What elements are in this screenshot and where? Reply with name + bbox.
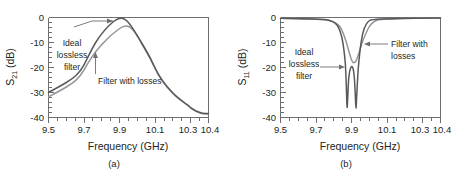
panel-b-annot-ideal-line-0: Ideal [295, 47, 314, 57]
panel-b: 0 -10 -20 -30 -40 9.5 9.7 9.9 10.1 10.3 … [228, 0, 456, 170]
panel-b-ytick-0: 0 [271, 12, 276, 23]
panel-a-y-axis-title: S21 (dB) [4, 48, 18, 86]
panel-a-ylabel-sub: 21 [11, 71, 18, 79]
panel-b-annotation-ideal-text: Ideal lossless filter [289, 47, 320, 81]
panel-b-ylabel-unit: (dB) [236, 48, 248, 71]
panel-a-annot-ideal-line-0: Ideal [63, 38, 82, 48]
panel-b-ylabel-sub: 11 [243, 71, 250, 78]
panel-b-annotation-lossy-leader [364, 41, 388, 46]
panel-b-xtick-5: 10.4 [433, 124, 452, 135]
panel-b-ytick-3: -30 [262, 87, 276, 98]
panel-b-ytick-2: -20 [262, 62, 276, 73]
panel-a-xtick-4: 10.3 [179, 124, 198, 135]
svg-text:S21 (dB): S21 (dB) [4, 48, 18, 86]
panel-a-xtick-2: 9.9 [113, 124, 126, 135]
panel-a-caption: (a) [108, 158, 120, 169]
panel-b-annotation-ideal-leader [320, 64, 345, 69]
panel-b-x-axis-title: Frequency (GHz) [320, 140, 401, 152]
panel-b-x-tick-labels: 9.5 9.7 9.9 10.1 10.3 10.4 [274, 124, 451, 135]
panel-a-ytick-1: -10 [30, 37, 44, 48]
panel-b-xtick-2: 9.9 [345, 124, 358, 135]
panel-a-ytick-4: -40 [30, 112, 44, 123]
panel-b-annot-lossy-line-1: losses [391, 51, 415, 61]
panel-a-ylabel-main: S [4, 79, 16, 86]
panel-a-annot-ideal-line-2: filter [64, 62, 80, 72]
panel-a-xtick-5: 10.4 [201, 124, 220, 135]
panel-a-xtick-3: 10.1 [146, 124, 165, 135]
panel-b-annot-ideal-line-1: lossless [289, 59, 320, 69]
panel-a-annot-lossy-text: Filter with losses [98, 76, 162, 86]
panel-b-caption: (b) [340, 158, 352, 169]
panel-b-ylabel-main: S [236, 79, 248, 86]
panel-b-y-axis-title: S11 (dB) [236, 48, 250, 85]
panel-b-ytick-4: -40 [262, 112, 276, 123]
figure-container: 0 -10 -20 -30 -40 9.5 9.7 9.9 10.1 10.3 … [0, 0, 457, 170]
panel-b-ytick-1: -10 [262, 37, 276, 48]
panel-a-ytick-0: 0 [39, 12, 44, 23]
panel-b-y-tick-labels: 0 -10 -20 -30 -40 [262, 12, 276, 123]
panel-a-ytick-3: -30 [30, 87, 44, 98]
panel-b-annot-ideal-line-2: filter [296, 71, 312, 81]
panel-a-annotation-ideal-leader [74, 18, 113, 27]
panel-a-x-tick-labels: 9.5 9.7 9.9 10.1 10.3 10.4 [42, 124, 219, 135]
panel-a-xtick-1: 9.7 [77, 124, 90, 135]
panel-b-xtick-0: 9.5 [274, 124, 287, 135]
panel-a-x-axis-title: Frequency (GHz) [88, 140, 169, 152]
panel-b-annotation-lossy-text: Filter with losses [391, 39, 428, 61]
panel-a-plot: 0 -10 -20 -30 -40 9.5 9.7 9.9 10.1 10.3 … [0, 0, 228, 170]
panel-b-xtick-4: 10.3 [411, 124, 430, 135]
panel-b-xtick-1: 9.7 [309, 124, 322, 135]
svg-text:S11 (dB): S11 (dB) [236, 48, 250, 85]
panel-a-ylabel-unit: (dB) [4, 48, 16, 71]
panel-b-annot-lossy-line-0: Filter with [391, 39, 428, 49]
panel-a-xtick-0: 9.5 [42, 124, 55, 135]
panel-a-ytick-2: -20 [30, 62, 44, 73]
panel-a-annot-ideal-line-1: lossless [57, 50, 88, 60]
panel-a: 0 -10 -20 -30 -40 9.5 9.7 9.9 10.1 10.3 … [0, 0, 228, 170]
panel-b-plot: 0 -10 -20 -30 -40 9.5 9.7 9.9 10.1 10.3 … [228, 0, 457, 170]
panel-b-xtick-3: 10.1 [378, 124, 397, 135]
panel-a-y-tick-labels: 0 -10 -20 -30 -40 [30, 12, 44, 123]
